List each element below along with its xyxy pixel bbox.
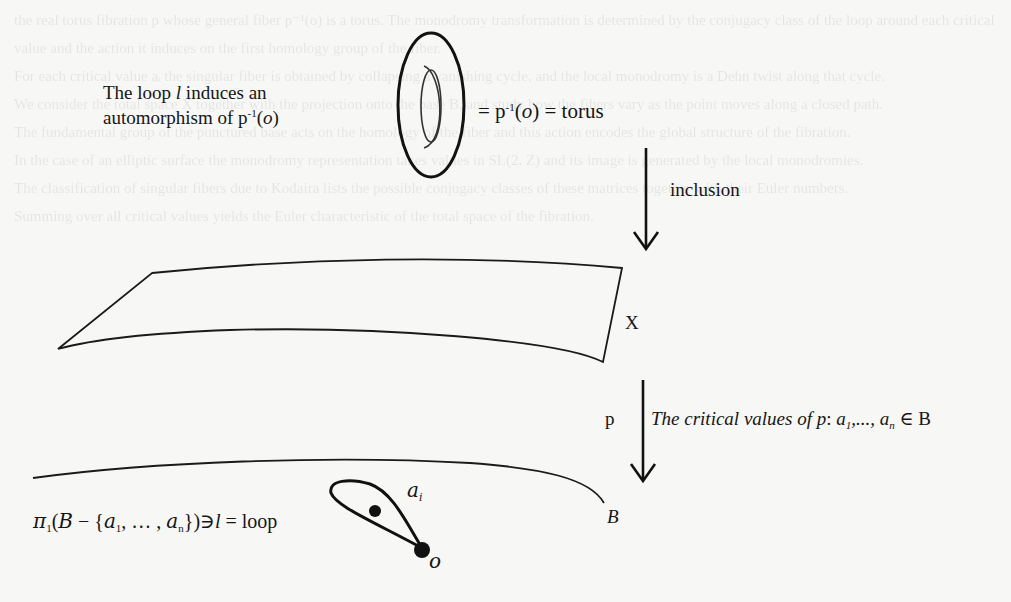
equals-loop: = loop (220, 510, 277, 532)
an-var: a (166, 509, 178, 533)
caption-text: The loop (103, 82, 176, 103)
torus-caption-line2: automorphism of p-1(o) (103, 108, 279, 127)
paren-close: ) (273, 107, 279, 128)
base-point-var: o (263, 107, 273, 128)
space-var: B (58, 509, 73, 533)
projection-arrow-icon (631, 380, 655, 481)
element-of-b: ∈ B (895, 408, 931, 429)
contains-symbol: ∋ (200, 510, 215, 532)
brace-close: }) (184, 510, 200, 532)
figure-page: the real torus fibration p whose general… (0, 0, 1011, 602)
caption-text: induces an (181, 82, 266, 103)
critical-point-dot (369, 505, 381, 517)
an-var: a (880, 408, 890, 429)
map-var: p (817, 408, 827, 429)
inverse-superscript: -1 (248, 107, 257, 119)
inclusion-arrow-icon (634, 148, 658, 249)
base-point-dot (414, 542, 430, 558)
equation-text: = p (478, 99, 506, 123)
plane-surface-icon (58, 259, 622, 362)
torus-equation: = p-1(o) = torus (478, 101, 604, 122)
a-var: a (407, 478, 419, 502)
base-point-var: o (522, 99, 533, 123)
subscript: i (419, 491, 423, 504)
inverse-superscript: -1 (506, 101, 515, 113)
critical-values-caption: The critical values of p: a1,..., an ∈ B (651, 409, 931, 428)
inclusion-label: inclusion (670, 180, 740, 199)
paren-open: ( (515, 99, 522, 123)
space-x-label: X (625, 313, 639, 332)
fundamental-group-expression: π1(B − {a1, … , an})∋l = loop (33, 511, 277, 531)
caption-text: The critical values of (651, 408, 817, 429)
pi-symbol: π (33, 509, 46, 533)
base-b-label: B (607, 507, 619, 526)
ellipsis: ,..., (851, 408, 880, 429)
torus-icon (398, 33, 464, 177)
torus-caption-line1: The loop l induces an (103, 83, 267, 102)
base-point-label: o (429, 551, 441, 571)
a1-var: a (104, 509, 116, 533)
colon: : (826, 408, 836, 429)
ellipsis: , … , (121, 510, 166, 532)
caption-text: automorphism of p (103, 107, 248, 128)
base-curve-icon (33, 460, 604, 503)
a1-var: a (836, 408, 846, 429)
set-minus: − { (73, 510, 104, 532)
projection-p-label: p (605, 409, 615, 428)
equation-text: ) = torus (532, 99, 603, 123)
critical-point-label: ai (407, 480, 422, 500)
